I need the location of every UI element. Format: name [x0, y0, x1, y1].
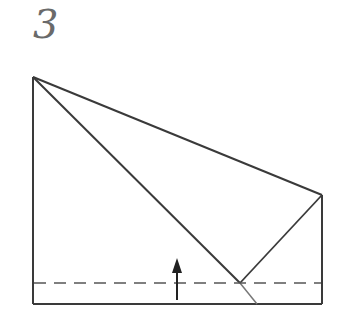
diagonal-hidden-edge	[240, 283, 257, 304]
diagonal-fold-edge	[33, 77, 240, 283]
right-flap-edge	[240, 195, 322, 283]
origami-diagram	[0, 0, 346, 325]
fold-up-arrow-icon	[172, 258, 182, 300]
